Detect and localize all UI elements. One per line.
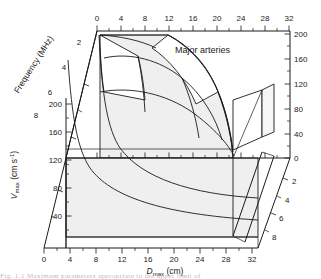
top-axis-tick-labels: 0 4 8 12 16 20 24 28 32 <box>95 14 294 23</box>
bottom-tick-label-2: 8 <box>94 255 99 264</box>
right-axis-ticks <box>285 34 291 158</box>
left-tick-label-0: 200 <box>49 100 63 109</box>
right-tick-label-0: 200 <box>294 30 308 39</box>
bottom-tick-label-0: 0 <box>42 255 47 264</box>
depth-right-ticks <box>265 178 288 232</box>
svg-text:Vmax (cm s-1): Vmax (cm s-1) <box>9 151 20 200</box>
right-tick-label-2: 120 <box>294 80 308 89</box>
right-axis-group: 200 160 120 80 40 0 <box>285 30 308 163</box>
svg-text:Frequency (MHz): Frequency (MHz) <box>12 34 55 95</box>
bottom-tick-label-3: 12 <box>118 255 127 264</box>
depth-left-axis-title: Frequency (MHz) <box>12 34 55 95</box>
depth-left-tick-label-1: 4 <box>62 63 67 72</box>
right-tick-label-1: 160 <box>294 55 308 64</box>
floor-shaded-region <box>66 158 258 237</box>
depth-right-tick-labels: 2 4 6 8 <box>272 177 297 242</box>
figure-caption-fragment: Fig. 1.1 Maximum parameters appropriate … <box>0 272 321 279</box>
depth-left-tick-label-0: 2 <box>77 38 82 47</box>
bottom-tick-label-6: 24 <box>196 255 205 264</box>
bottom-tick-label-8: 32 <box>248 255 257 264</box>
annotation-major-arteries: Major arteries <box>175 45 231 55</box>
depth-right-tick-label-3: 8 <box>272 233 277 242</box>
figure-3d-plot: 0 4 8 12 16 20 24 28 32 <box>0 0 321 279</box>
left-tick-label-1: 160 <box>49 128 63 137</box>
bottom-tick-label-4: 16 <box>144 255 153 264</box>
bottom-tick-label-1: 4 <box>68 255 73 264</box>
depth-left-tick-label-2: 6 <box>48 88 53 97</box>
top-axis-group: 0 4 8 12 16 20 24 28 32 <box>95 14 294 31</box>
left-axis-tick-labels: 200 160 120 80 40 <box>49 100 63 221</box>
top-axis-ticks <box>97 26 289 32</box>
depth-right-tick-label-0: 2 <box>292 177 297 186</box>
left-axis-title: Vmax (cm s-1) <box>9 151 20 200</box>
top-tick-label-6: 24 <box>237 14 246 23</box>
top-tick-label-5: 20 <box>213 14 222 23</box>
left-tick-label-4: 40 <box>53 212 62 221</box>
plot-svg: 0 4 8 12 16 20 24 28 32 <box>0 0 321 279</box>
top-tick-label-2: 8 <box>143 14 148 23</box>
depth-right-tick-label-1: 4 <box>285 196 290 205</box>
surface-facet-right-a <box>233 90 262 150</box>
depth-left-tick-label-3: 8 <box>34 111 39 120</box>
left-tick-label-2: 120 <box>49 156 63 165</box>
bottom-axis-ticks <box>44 248 252 254</box>
bottom-tick-label-7: 28 <box>222 255 231 264</box>
left-axis-title-unit: (cm s <box>9 159 19 180</box>
right-tick-label-3: 80 <box>294 105 303 114</box>
top-tick-label-3: 12 <box>165 14 174 23</box>
top-tick-label-8: 32 <box>285 14 294 23</box>
top-tick-label-7: 28 <box>261 14 270 23</box>
right-axis-tick-labels: 200 160 120 80 40 0 <box>294 30 308 163</box>
top-tick-label-1: 4 <box>119 14 124 23</box>
bottom-axis-tick-labels: 0 4 8 12 16 20 24 28 32 <box>42 255 257 264</box>
top-tick-label-0: 0 <box>95 14 100 23</box>
left-axis-title-unit-close: ) <box>9 151 19 154</box>
left-axis-title-sub: max <box>14 182 20 193</box>
top-tick-label-4: 16 <box>189 14 198 23</box>
right-tick-label-4: 40 <box>294 130 303 139</box>
frame-edge-fold-b <box>262 152 274 156</box>
bottom-tick-label-5: 20 <box>170 255 179 264</box>
right-tick-label-5: 0 <box>294 154 299 163</box>
depth-right-tick-label-2: 6 <box>279 214 284 223</box>
surface-facet-right-b <box>262 84 274 137</box>
